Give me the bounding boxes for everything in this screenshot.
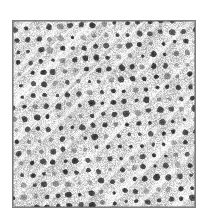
micrograph-image-panel <box>12 20 196 208</box>
micrograph-texture-canvas <box>13 21 195 207</box>
figure-root <box>0 0 209 218</box>
